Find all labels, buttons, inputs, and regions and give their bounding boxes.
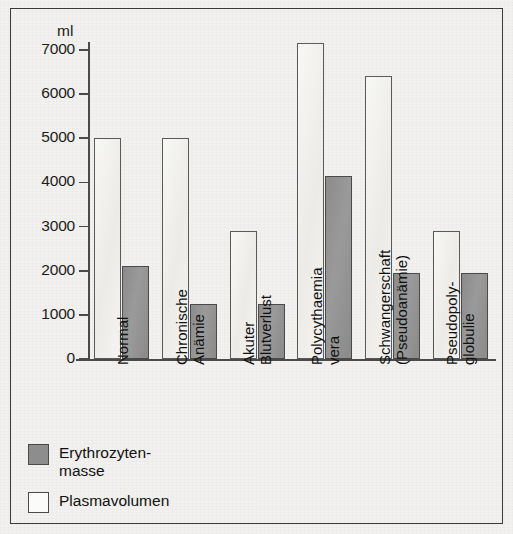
legend-label-line: Plasmavolumen xyxy=(59,492,169,510)
x-axis-category-line: Akuter xyxy=(240,295,257,365)
y-axis-tick xyxy=(79,137,89,139)
x-axis-category-label: ChronischeAnämie xyxy=(173,289,207,365)
x-axis-category-label: Normal xyxy=(114,317,131,365)
y-axis-tick xyxy=(79,226,89,228)
x-axis-category-label: Pseudopoly-globulie xyxy=(443,282,477,365)
y-axis-tick xyxy=(79,49,89,51)
x-axis-category-label: Polycythaemiavera xyxy=(308,267,342,365)
x-axis-category-line: globulie xyxy=(460,282,477,365)
legend-item-label: Erythrozyten-masse xyxy=(59,444,151,480)
x-axis-category-line: Polycythaemia xyxy=(308,267,325,365)
x-axis-category-line: Normal xyxy=(114,317,131,365)
y-axis-tick-label: 6000 xyxy=(10,84,75,102)
x-axis-category-label: AkuterBlutverlust xyxy=(240,295,274,365)
y-axis-tick xyxy=(79,182,89,184)
legend-label-line: masse xyxy=(59,462,151,480)
x-axis-category-line: Chronische xyxy=(173,289,190,365)
legend-item: Plasmavolumen xyxy=(28,492,169,513)
y-axis-tick xyxy=(79,270,89,272)
y-axis-tick-label: 4000 xyxy=(10,172,75,190)
y-axis-tick-label: 1000 xyxy=(10,305,75,323)
x-axis-category-label: Schwangerschaft(Pseudoanämie) xyxy=(376,250,410,365)
legend-label-line: Erythrozyten- xyxy=(59,444,151,462)
x-axis-baseline xyxy=(76,359,496,361)
legend-item-label: Plasmavolumen xyxy=(59,492,169,510)
y-axis-tick-label: 2000 xyxy=(10,261,75,279)
y-axis-tick-label: 5000 xyxy=(10,128,75,146)
y-axis-tick-label: 7000 xyxy=(10,40,75,58)
legend-swatch-plasmavolumen xyxy=(28,492,49,513)
legend-swatch-erythrozytenmasse xyxy=(28,444,49,465)
chart-page: ml01000200030004000500060007000NormalChr… xyxy=(0,0,513,534)
y-axis-tick xyxy=(79,358,89,360)
y-axis-tick xyxy=(79,314,89,316)
y-axis-unit-label: ml xyxy=(57,22,73,40)
legend-item: Erythrozyten-masse xyxy=(28,444,151,480)
x-axis-category-line: (Pseudoanämie) xyxy=(393,250,410,365)
y-axis-tick-label: 0 xyxy=(10,349,75,367)
chart-legend: Erythrozyten-massePlasmavolumen xyxy=(28,444,258,514)
y-axis-tick xyxy=(79,93,89,95)
x-axis-category-line: Pseudopoly- xyxy=(443,282,460,365)
x-axis-category-line: Anämie xyxy=(190,289,207,365)
x-axis-category-line: Blutverlust xyxy=(257,295,274,365)
x-axis-category-line: Schwangerschaft xyxy=(376,250,393,365)
x-axis-category-line: vera xyxy=(325,267,342,365)
y-axis-tick-label: 3000 xyxy=(10,217,75,235)
